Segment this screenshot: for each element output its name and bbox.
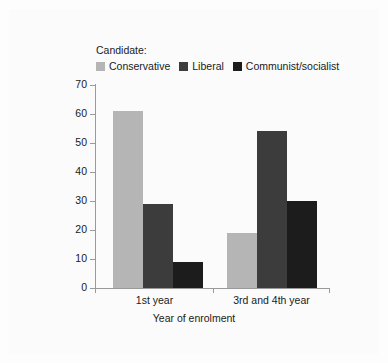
bar-1st-year-liberal bbox=[143, 204, 173, 288]
bar-1st-year-conservative bbox=[113, 111, 143, 288]
x-group-label-3rd-and-4th-year: 3rd and 4th year bbox=[213, 294, 330, 306]
legend-swatch-communist-socialist bbox=[233, 62, 242, 71]
x-axis-label: Year of enrolment bbox=[0, 312, 388, 324]
x-axis-tick-start bbox=[95, 288, 96, 293]
bar-1st-year-communist-socialist bbox=[173, 262, 203, 288]
legend-item-liberal: Liberal bbox=[179, 60, 224, 72]
x-axis-tick-end bbox=[329, 288, 330, 293]
legend-label-communist-socialist: Communist/socialist bbox=[246, 60, 339, 72]
x-axis-tick-middle bbox=[213, 288, 214, 293]
bar-3rd-and-4th-year-communist-socialist bbox=[287, 201, 317, 288]
legend-label-liberal: Liberal bbox=[192, 60, 224, 72]
x-group-label-1st-year: 1st year bbox=[96, 294, 213, 306]
y-tick-mark bbox=[90, 288, 95, 289]
chart-figure: Candidate: Conservative Liberal Communis… bbox=[0, 0, 388, 363]
bar-3rd-and-4th-year-conservative bbox=[227, 233, 257, 288]
chart-legend: Candidate: Conservative Liberal Communis… bbox=[96, 44, 339, 72]
bars-layer bbox=[0, 85, 388, 288]
legend-swatch-conservative bbox=[96, 62, 105, 71]
legend-items: Conservative Liberal Communist/socialist bbox=[96, 60, 339, 72]
legend-item-communist-socialist: Communist/socialist bbox=[233, 60, 339, 72]
legend-swatch-liberal bbox=[179, 62, 188, 71]
legend-title: Candidate: bbox=[96, 44, 339, 56]
bar-3rd-and-4th-year-liberal bbox=[257, 131, 287, 288]
legend-item-conservative: Conservative bbox=[96, 60, 170, 72]
legend-label-conservative: Conservative bbox=[109, 60, 170, 72]
